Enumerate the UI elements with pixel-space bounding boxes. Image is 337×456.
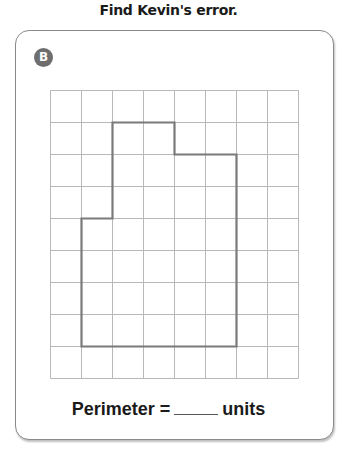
perimeter-line: Perimeter =units [0,398,337,420]
perimeter-label: Perimeter = [72,399,171,419]
grid-figure [0,0,337,456]
units-label: units [222,399,265,419]
shape-outline [82,123,237,347]
perimeter-answer-blank[interactable] [174,398,218,415]
